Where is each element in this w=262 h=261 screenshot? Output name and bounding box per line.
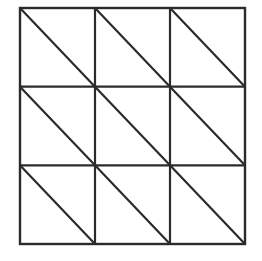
grid-diagram	[0, 0, 262, 261]
figure-container	[0, 0, 262, 261]
